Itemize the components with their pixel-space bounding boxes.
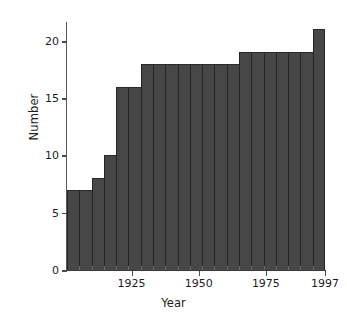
- x-tick-minor: [178, 266, 179, 270]
- bar: [313, 29, 325, 270]
- x-tick-minor: [214, 266, 215, 270]
- y-tick-mark: [62, 155, 67, 157]
- y-tick-label: 15: [45, 92, 59, 105]
- x-tick-mark: [325, 271, 326, 276]
- y-tick-label: 5: [52, 206, 59, 219]
- x-tick-minor: [300, 266, 301, 270]
- x-tick-minor: [202, 266, 203, 270]
- y-tick-label: 20: [45, 34, 59, 47]
- y-tick-mark: [62, 213, 67, 215]
- plot-area: [67, 18, 325, 270]
- x-tick-minor: [276, 266, 277, 270]
- x-tick-minor: [227, 266, 228, 270]
- x-tick-minor: [239, 266, 240, 270]
- bar-series: [67, 18, 325, 270]
- x-tick-minor: [313, 266, 314, 270]
- bar: [67, 190, 79, 270]
- x-tick-minor: [92, 266, 93, 270]
- bar: [300, 52, 312, 270]
- y-axis-title: Number: [27, 77, 41, 157]
- bar: [214, 64, 226, 270]
- y-tick-label: 10: [45, 149, 59, 162]
- x-tick-minor: [264, 266, 265, 270]
- x-axis-title: Year: [0, 296, 347, 310]
- x-tick-minor: [128, 266, 129, 270]
- x-tick-minor: [79, 266, 80, 270]
- x-tick-minor: [116, 266, 117, 270]
- bar: [288, 52, 300, 270]
- bar: [239, 52, 251, 270]
- bar: [251, 52, 263, 270]
- x-tick-label: 1997: [311, 277, 339, 290]
- bar: [165, 64, 177, 270]
- x-tick-label: 1950: [185, 277, 213, 290]
- bar: [141, 64, 153, 270]
- x-tick-mark: [132, 271, 133, 276]
- y-tick-label: 0: [52, 264, 59, 277]
- bar: [79, 190, 91, 270]
- x-tick-minor: [190, 266, 191, 270]
- bar: [153, 64, 165, 270]
- x-tick-mark: [199, 271, 200, 276]
- x-tick-label: 1925: [118, 277, 146, 290]
- bar: [178, 64, 190, 270]
- bar-chart: Number 05101520 1925195019751997 Year: [0, 0, 347, 322]
- x-tick-minor: [251, 266, 252, 270]
- bar: [276, 52, 288, 270]
- x-tick-minor: [288, 266, 289, 270]
- bar: [128, 87, 140, 270]
- x-tick-label: 1975: [252, 277, 280, 290]
- bar: [190, 64, 202, 270]
- bar: [202, 64, 214, 270]
- y-tick-mark: [62, 41, 67, 43]
- bar: [116, 87, 128, 270]
- y-tick-mark: [62, 98, 67, 100]
- x-tick-mark: [266, 271, 267, 276]
- bar: [104, 155, 116, 270]
- x-tick-minor: [104, 266, 105, 270]
- y-tick-mark: [62, 270, 67, 272]
- bar: [227, 64, 239, 270]
- x-tick-minor: [165, 266, 166, 270]
- x-tick-minor: [141, 266, 142, 270]
- bar: [264, 52, 276, 270]
- bar: [92, 178, 104, 270]
- x-tick-minor: [153, 266, 154, 270]
